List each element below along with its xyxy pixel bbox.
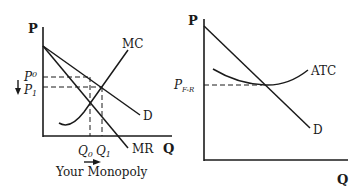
pfr-label: PF-R	[173, 78, 195, 94]
right-graph: P Q ATC D PF-R	[173, 13, 348, 187]
atc-label: ATC	[310, 64, 336, 78]
q0-label: Q0	[78, 144, 93, 159]
left-graph: P Q MC D MR P0 P1 Q0 Q1 Your Monopoly	[15, 21, 174, 179]
p0-label: P0	[23, 70, 37, 84]
left-demand-label: D	[143, 109, 153, 123]
right-demand-curve	[204, 26, 310, 128]
p1-label: P1	[23, 83, 37, 98]
down-arrow-icon	[15, 80, 21, 95]
atc-curve	[213, 69, 308, 85]
left-y-axis-label: P	[28, 21, 38, 36]
q1-label: Q1	[96, 144, 111, 159]
left-x-axis-label: Q	[163, 141, 174, 156]
diagram-canvas: P Q MC D MR P0 P1 Q0 Q1 Your Monopoly	[0, 0, 356, 191]
mr-label: MR	[132, 142, 154, 156]
right-demand-label: D	[313, 123, 323, 137]
right-y-axis-label: P	[188, 13, 198, 28]
mc-label: MC	[122, 37, 143, 51]
monopoly-caption: Your Monopoly	[55, 165, 148, 179]
right-x-axis-label: Q	[337, 172, 348, 187]
